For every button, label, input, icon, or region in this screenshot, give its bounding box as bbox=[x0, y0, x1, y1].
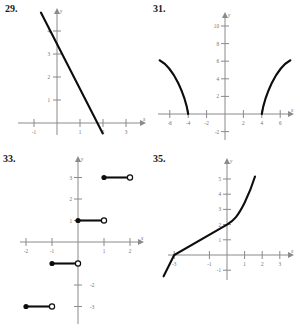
step-segment-y1 bbox=[75, 218, 106, 223]
y-axis-label: y bbox=[227, 12, 231, 18]
y-tick-label: 8 bbox=[216, 41, 219, 47]
x-axis-label: x bbox=[290, 248, 294, 254]
x-tick-label: -3 bbox=[172, 261, 177, 267]
x-tick-label: 1 bbox=[103, 248, 106, 254]
problem-panel-33: 33. bbox=[0, 150, 150, 329]
x-tick-label: -1 bbox=[50, 248, 55, 254]
y-tick-label: -2 bbox=[215, 129, 220, 135]
data-curve-31-right bbox=[262, 60, 291, 114]
x-tick-label: 3 bbox=[125, 129, 128, 135]
x-tick-label: 1 bbox=[243, 261, 246, 267]
y-axis-label: y bbox=[80, 156, 84, 162]
problem-panel-29: 29. bbox=[0, 0, 150, 150]
graph-31: -6 -4 -2 2 4 6 -2 2 4 6 8 10 x y bbox=[150, 0, 300, 150]
x-axis-label: x bbox=[290, 107, 294, 113]
x-tick-label: -2 bbox=[204, 120, 209, 126]
y-tick-label: 2 bbox=[47, 74, 50, 80]
textbook-graph-page: 29. bbox=[0, 0, 300, 329]
graph-33: -2 -1 1 2 -3 -2 1 2 3 x y bbox=[0, 150, 150, 329]
graph-35: -3 -1 1 2 3 -1 1 2 3 4 5 x y bbox=[150, 150, 300, 329]
x-tick-label: -4 bbox=[186, 120, 191, 126]
x-tick-label: 2 bbox=[129, 248, 132, 254]
y-tick-label: 2 bbox=[69, 196, 72, 202]
x-tick-label: -1 bbox=[32, 129, 37, 135]
x-tick-label: -1 bbox=[207, 261, 212, 267]
axes-33 bbox=[20, 156, 144, 324]
step-segment-y3 bbox=[101, 175, 132, 180]
y-tick-label: 10 bbox=[214, 23, 220, 29]
y-tick-label: 3 bbox=[47, 51, 50, 57]
y-tick-label: 1 bbox=[47, 97, 50, 103]
y-tick-label: 2 bbox=[216, 93, 219, 99]
step-segment-y-neg1 bbox=[49, 261, 80, 266]
x-tick-label: 2 bbox=[261, 261, 264, 267]
y-axis-label: y bbox=[229, 158, 233, 164]
y-tick-label: 3 bbox=[218, 206, 221, 212]
y-tick-label: -2 bbox=[90, 282, 95, 288]
problem-panel-31: 31. bbox=[150, 0, 300, 150]
y-tick-label: 4 bbox=[216, 76, 219, 82]
data-curve-31-left bbox=[160, 60, 189, 114]
y-tick-label: 5 bbox=[218, 176, 221, 182]
y-tick-label: 2 bbox=[218, 222, 221, 228]
x-tick-label: -2 bbox=[24, 248, 29, 254]
y-tick-label: 1 bbox=[69, 218, 72, 224]
y-tick-label: 1 bbox=[218, 237, 221, 243]
y-tick-label: 4 bbox=[218, 191, 221, 197]
y-tick-label: 3 bbox=[69, 175, 72, 181]
problem-panel-35: 35. bbox=[150, 150, 300, 329]
axes-29 bbox=[18, 8, 146, 135]
x-tick-label: -6 bbox=[168, 120, 173, 126]
axes-31 bbox=[158, 12, 294, 140]
data-line-29 bbox=[41, 13, 103, 134]
step-segment-y-neg3 bbox=[23, 304, 54, 309]
axes-35 bbox=[168, 158, 294, 280]
x-tick-label: 3 bbox=[279, 261, 282, 267]
y-tick-label: 6 bbox=[216, 58, 219, 64]
x-tick-label: 2 bbox=[242, 120, 245, 126]
x-axis-label: x bbox=[140, 235, 144, 241]
x-tick-label: 4 bbox=[261, 120, 264, 126]
x-axis-label: x bbox=[142, 116, 146, 122]
y-tick-label: -3 bbox=[90, 304, 95, 310]
x-tick-label: 1 bbox=[79, 129, 82, 135]
y-axis-label: y bbox=[59, 8, 63, 14]
graph-29: -1 1 2 3 1 2 3 4 x y bbox=[0, 0, 150, 150]
x-tick-label: 6 bbox=[279, 120, 282, 126]
y-tick-label: -1 bbox=[217, 267, 222, 273]
